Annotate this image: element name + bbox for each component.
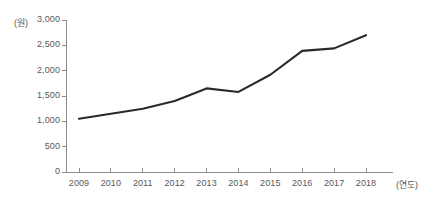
x-axis-tick-label: 2017 (317, 178, 351, 188)
y-axis-tick-label: 3,000 (20, 14, 60, 24)
x-axis-tick-label: 2010 (94, 178, 128, 188)
x-axis-tick-label: 2018 (349, 178, 383, 188)
y-axis-tick-label: 2,000 (20, 65, 60, 75)
x-axis-tick-label: 2009 (62, 178, 96, 188)
axes-group (62, 20, 393, 172)
y-axis-tick-label: 1,000 (20, 115, 60, 125)
x-axis-tick-label: 2015 (253, 178, 287, 188)
x-axis-tick-label: 2016 (285, 178, 319, 188)
y-axis-tick-label: 1,500 (20, 90, 60, 100)
y-axis-tick-label: 500 (20, 141, 60, 151)
x-axis-tick-label: 2013 (190, 178, 224, 188)
x-axis-unit-label: (연도) (396, 178, 418, 191)
x-axis-tick-label: 2014 (221, 178, 255, 188)
data-series-group (79, 35, 366, 119)
y-axis-tick-label: 2,500 (20, 39, 60, 49)
x-axis-tick-label: 2012 (158, 178, 192, 188)
x-axis-tick-label: 2011 (126, 178, 160, 188)
y-axis-tick-label: 0 (20, 166, 60, 176)
plot-area (0, 0, 434, 200)
line-chart: (원) 05001,0001,5002,0002,5003,000 200920… (0, 0, 434, 200)
data-line (79, 35, 366, 119)
